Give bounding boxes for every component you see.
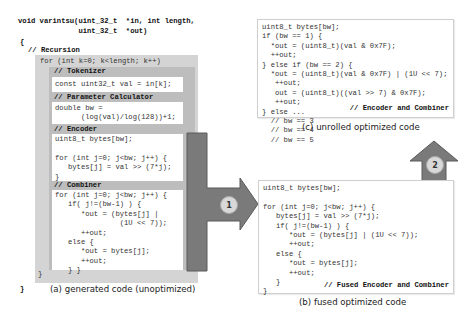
function-signature-line-1: void varintsu(uint_32_t *in, int length, (18, 17, 195, 26)
caption-a: (a) generated code (unoptimized) (50, 284, 195, 294)
encoder-code: uint8_t bytes[bw]; for (int j=0; j<bw; j… (55, 135, 171, 182)
caption-c: (c) unrolled optimized code (302, 122, 420, 132)
combiner-comment: // Combiner (54, 181, 101, 189)
loop-close-brace: } (38, 270, 42, 279)
parameter-calculator-code: double bw = (log(val)/log(128))+1; (55, 104, 176, 123)
tokenizer-comment: // Tokenizer (54, 67, 106, 75)
step-2-number: 2 (432, 161, 438, 170)
function-signature-line-2: uint_32_t *out) (18, 27, 147, 36)
panel-b-code: uint8_t bytes[bw]; for (int j=0; j<bw; j… (263, 184, 418, 297)
panel-b-label: // Fused Encoder and Combiner (324, 281, 449, 289)
parameter-calculator-comment: // Parameter Calculator (54, 93, 153, 101)
step-2-badge: 2 (426, 156, 444, 174)
encoder-comment: // Encoder (54, 125, 97, 133)
combiner-code: for (int j=0; j<bw; j++) { if( j!=(bw-1)… (55, 191, 167, 276)
recursion-comment: // Recursion (28, 46, 80, 54)
tokenizer-code: const uint32_t val = in[k]; (55, 80, 171, 89)
caption-b: (b) fused optimized code (299, 297, 406, 307)
step-1-number: 1 (226, 201, 232, 210)
panel-c-label: // Encoder and Combiner (350, 104, 449, 112)
tokenizer-box: const uint32_t val = in[k]; (52, 77, 183, 92)
panel-b-fused-code: uint8_t bytes[bw]; for (int j=0; j<bw; j… (258, 180, 454, 294)
encoder-box: uint8_t bytes[bw]; for (int j=0; j<bw; j… (52, 134, 183, 181)
for-loop-header: for (int k=0; k<length; k++) (40, 57, 161, 66)
panel-c-unrolled-code: uint8_t bytes[bw]; if (bw == 1) { *out =… (257, 19, 454, 118)
step-1-badge: 1 (220, 196, 238, 214)
open-brace: { (20, 38, 24, 47)
close-brace: } (20, 285, 24, 294)
parameter-calculator-box: double bw = (log(val)/log(128))+1; (52, 102, 183, 124)
combiner-box: for (int j=0; j<bw; j++) { if( j!=(bw-1)… (52, 190, 183, 270)
